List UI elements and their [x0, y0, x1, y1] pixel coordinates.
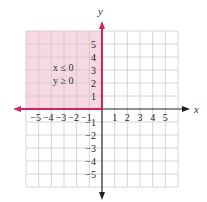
svg-text:4: 4: [91, 52, 96, 63]
arrow-right-icon: [182, 106, 190, 112]
svg-text:−2: −2: [85, 130, 96, 141]
svg-text:−5: −5: [30, 112, 41, 123]
svg-text:−5: −5: [85, 169, 96, 180]
arrow-left-icon: [13, 106, 21, 112]
svg-text:5: 5: [91, 39, 96, 50]
svg-text:4: 4: [150, 112, 155, 123]
svg-text:5: 5: [163, 112, 168, 123]
svg-text:3: 3: [91, 65, 96, 76]
inequality-x: x ≤ 0: [53, 62, 74, 73]
svg-text:−2: −2: [68, 112, 79, 123]
svg-text:−3: −3: [56, 112, 67, 123]
arrow-up-icon: [99, 21, 105, 29]
coordinate-plane: −5−4−3−2−112345−5−4−3−2−112345 x y x ≤ 0…: [0, 0, 207, 202]
svg-text:3: 3: [138, 112, 143, 123]
arrow-down-icon: [99, 192, 105, 200]
svg-text:−4: −4: [43, 112, 54, 123]
svg-text:−3: −3: [85, 143, 96, 154]
svg-text:2: 2: [91, 78, 96, 89]
svg-text:−1: −1: [85, 117, 96, 128]
x-axis-label: x: [193, 103, 199, 115]
inequality-y: y ≥ 0: [53, 75, 74, 86]
svg-text:1: 1: [112, 112, 117, 123]
svg-text:−4: −4: [85, 156, 96, 167]
svg-text:2: 2: [125, 112, 130, 123]
y-axis-label: y: [97, 5, 103, 17]
svg-text:1: 1: [91, 91, 96, 102]
